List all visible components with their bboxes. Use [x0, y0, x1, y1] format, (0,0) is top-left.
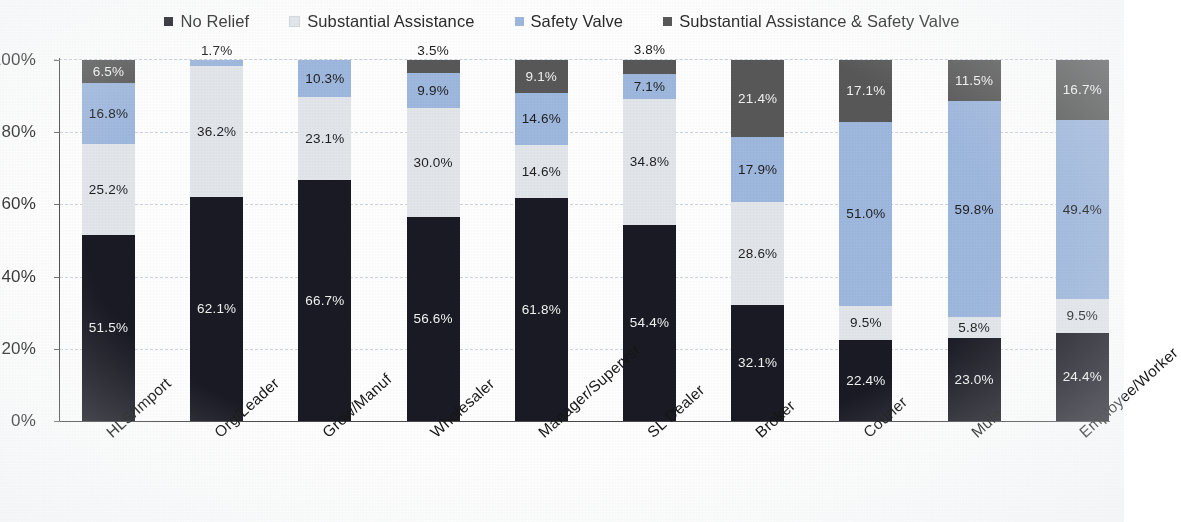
bar-segment[interactable]: 51.5% — [82, 235, 135, 421]
segment-value-label: 9.5% — [1067, 309, 1099, 323]
bar-mule[interactable]: 23.0%5.8%59.8%11.5% — [948, 60, 1001, 421]
segment-value-label: 32.1% — [738, 356, 777, 370]
bar-segment[interactable]: 34.8% — [623, 99, 676, 225]
bar-segment[interactable]: 61.8% — [515, 198, 568, 421]
bar-segment[interactable]: 23.1% — [298, 97, 351, 180]
bar-segment[interactable]: 14.6% — [515, 145, 568, 198]
segment-value-label: 5.8% — [958, 321, 990, 335]
y-tick-label: 40% — [0, 267, 36, 287]
y-tick-mark — [54, 349, 60, 350]
bar-segment[interactable]: 32.1% — [731, 305, 784, 421]
segment-value-label: 16.8% — [89, 107, 128, 121]
bar-segment[interactable]: 28.6% — [731, 202, 784, 305]
bar-grow-manuf[interactable]: 66.7%23.1%10.3% — [298, 60, 351, 421]
bar-segment[interactable]: 59.8% — [948, 101, 1001, 317]
segment-value-label: 59.8% — [954, 203, 993, 217]
y-tick-mark — [54, 132, 60, 133]
y-tick-label: 60% — [0, 194, 36, 214]
y-tick-mark — [54, 277, 60, 278]
bar-segment[interactable]: 5.8% — [948, 317, 1001, 338]
bar-segment[interactable]: 9.5% — [839, 306, 892, 340]
segment-value-label: 23.1% — [305, 132, 344, 146]
segment-value-label: 30.0% — [413, 156, 452, 170]
bar-segment[interactable]: 17.9% — [731, 137, 784, 202]
segment-value-label: 9.5% — [850, 316, 882, 330]
plot-area: 0%20%40%60%80%100% 51.5%25.2%16.8%6.5%62… — [60, 60, 1108, 421]
segment-value-label: 66.7% — [305, 294, 344, 308]
segment-value-label: 51.5% — [89, 321, 128, 335]
bar-segment[interactable]: 66.7% — [298, 180, 351, 421]
y-tick-mark — [54, 204, 60, 205]
segment-value-label: 24.4% — [1063, 370, 1102, 384]
segment-value-label: 61.8% — [522, 303, 561, 317]
bar-manager-supervsr[interactable]: 61.8%14.6%14.6%9.1% — [515, 60, 568, 421]
bar-sl-dealer[interactable]: 54.4%34.8%7.1%3.8% — [623, 60, 676, 421]
segment-value-label: 23.0% — [954, 373, 993, 387]
bar-segment[interactable]: 9.5% — [1056, 299, 1109, 333]
bar-segment[interactable]: 49.4% — [1056, 120, 1109, 298]
segment-value-label: 25.2% — [89, 183, 128, 197]
bar-broker[interactable]: 32.1%28.6%17.9%21.4% — [731, 60, 784, 421]
segment-value-label: 17.9% — [738, 163, 777, 177]
segment-value-label: 22.4% — [846, 374, 885, 388]
segment-value-label: 14.6% — [522, 165, 561, 179]
segment-value-label: 62.1% — [197, 302, 236, 316]
bar-segment[interactable]: 54.4% — [623, 225, 676, 421]
segment-value-label: 36.2% — [197, 125, 236, 139]
segment-value-label: 56.6% — [413, 312, 452, 326]
bar-segment[interactable]: 30.0% — [407, 108, 460, 216]
y-tick-label: 0% — [0, 411, 36, 431]
bar-courier[interactable]: 22.4%9.5%51.0%17.1% — [839, 60, 892, 421]
y-tick-mark — [54, 421, 60, 422]
y-axis-line — [59, 58, 60, 422]
bar-segment[interactable]: 51.0% — [839, 122, 892, 306]
bar-segment[interactable]: 25.2% — [82, 144, 135, 235]
bar-wholesaler[interactable]: 56.6%30.0%9.9%3.5% — [407, 60, 460, 421]
segment-value-label: 51.0% — [846, 207, 885, 221]
y-tick-label: 20% — [0, 339, 36, 359]
bar-hls-import[interactable]: 51.5%25.2%16.8%6.5% — [82, 60, 135, 421]
bar-segment[interactable]: 62.1% — [190, 197, 243, 421]
segment-value-label: 49.4% — [1063, 203, 1102, 217]
segment-value-label: 14.6% — [522, 112, 561, 126]
y-tick-label: 100% — [0, 50, 36, 70]
bar-org-leader[interactable]: 62.1%36.2%1.7% — [190, 60, 243, 421]
x-axis-labels: HLS/ImportOrg/LeaderGrow/ManufWholesaler… — [60, 0, 1108, 100]
bar-segment[interactable]: 14.6% — [515, 93, 568, 146]
segment-value-label: 34.8% — [630, 155, 669, 169]
segment-value-label: 28.6% — [738, 247, 777, 261]
y-tick-label: 80% — [0, 122, 36, 142]
bar-segment[interactable]: 56.6% — [407, 217, 460, 421]
bar-employee-worker[interactable]: 24.4%9.5%49.4%16.7% — [1056, 60, 1109, 421]
segment-value-label: 54.4% — [630, 316, 669, 330]
